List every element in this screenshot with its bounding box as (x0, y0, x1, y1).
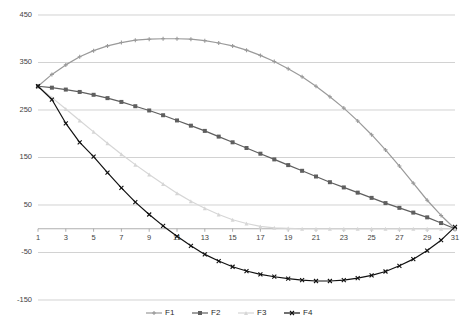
data-point-marker (411, 257, 415, 261)
data-point-marker (78, 140, 82, 144)
series-f1 (36, 37, 457, 231)
data-point-marker (231, 44, 235, 48)
y-tick-label: 150 (19, 152, 32, 161)
x-tick-label: 15 (228, 233, 236, 242)
series-line-f4 (38, 86, 455, 281)
data-point-marker (119, 186, 123, 190)
data-point-marker (161, 224, 165, 228)
chart-canvas: 45035025015050-50-150 135791113151719212… (0, 0, 464, 327)
data-point-marker (106, 44, 110, 48)
legend-label: F3 (257, 308, 267, 317)
data-point-marker (272, 157, 276, 161)
data-point-marker (50, 86, 54, 90)
data-point-marker (152, 311, 156, 315)
data-point-marker (384, 201, 388, 205)
data-point-marker (161, 37, 165, 41)
data-point-marker (189, 37, 193, 41)
data-point-marker (231, 140, 235, 144)
y-tick-label: 250 (19, 105, 32, 114)
x-tick-label: 23 (340, 233, 348, 242)
data-point-marker (175, 118, 179, 122)
line-chart: 45035025015050-50-150 135791113151719212… (0, 0, 464, 327)
data-point-marker (300, 169, 304, 173)
data-point-marker (78, 90, 82, 94)
data-point-marker (258, 152, 262, 156)
plot-series (36, 37, 457, 283)
data-point-marker (425, 249, 429, 253)
data-point-marker (106, 171, 110, 175)
data-point-marker (119, 100, 123, 104)
legend-label: F2 (211, 308, 221, 317)
legend-label: F4 (303, 308, 313, 317)
y-axis-tick-labels: 45035025015050-50-150 (17, 10, 32, 304)
x-tick-label: 31 (451, 233, 459, 242)
data-point-marker (439, 221, 443, 225)
data-point-marker (217, 135, 221, 139)
x-tick-label: 27 (395, 233, 403, 242)
data-point-marker (147, 213, 151, 217)
data-point-marker (133, 38, 137, 42)
data-point-marker (198, 311, 202, 315)
x-tick-label: 17 (256, 233, 264, 242)
legend-item-f2[interactable]: F2 (192, 308, 221, 317)
x-tick-label: 1 (36, 233, 40, 242)
legend-item-f4[interactable]: F4 (284, 308, 313, 317)
data-point-marker (356, 191, 360, 195)
data-point-marker (314, 175, 318, 179)
legend-item-f3[interactable]: F3 (238, 308, 267, 317)
y-tick-label: 450 (19, 10, 32, 19)
data-point-marker (92, 155, 96, 159)
x-tick-label: 9 (147, 233, 151, 242)
chart-legend: F1F2F3F4 (146, 308, 313, 317)
data-point-marker (92, 93, 96, 97)
data-point-marker (286, 163, 290, 167)
data-point-marker (397, 206, 401, 210)
data-point-marker (370, 196, 374, 200)
x-tick-label: 29 (423, 233, 431, 242)
data-point-marker (425, 215, 429, 219)
data-point-marker (203, 129, 207, 133)
data-point-marker (161, 113, 165, 117)
data-point-marker (203, 252, 207, 256)
data-point-marker (147, 37, 151, 41)
data-point-marker (133, 200, 137, 204)
x-tick-label: 19 (284, 233, 292, 242)
data-point-marker (342, 185, 346, 189)
data-point-marker (64, 121, 68, 125)
x-tick-label: 13 (201, 233, 209, 242)
data-point-marker (133, 104, 137, 108)
data-point-marker (106, 96, 110, 100)
x-tick-label: 25 (367, 233, 375, 242)
series-line-f1 (38, 39, 455, 229)
x-tick-label: 7 (119, 233, 123, 242)
data-point-marker (119, 41, 123, 45)
data-point-marker (258, 53, 262, 57)
data-point-marker (64, 88, 68, 92)
data-point-marker (147, 108, 151, 112)
legend-item-f1[interactable]: F1 (146, 308, 175, 317)
y-tick-label: 350 (19, 57, 32, 66)
y-tick-label: -150 (17, 295, 32, 304)
data-point-marker (245, 146, 249, 150)
x-tick-label: 21 (312, 233, 320, 242)
data-point-marker (328, 180, 332, 184)
x-tick-label: 3 (64, 233, 68, 242)
data-point-marker (189, 124, 193, 128)
data-point-marker (411, 211, 415, 215)
y-tick-label: -50 (21, 247, 32, 256)
series-f4 (36, 84, 457, 283)
data-point-marker (189, 244, 193, 248)
data-point-marker (175, 37, 179, 41)
x-tick-label: 5 (92, 233, 96, 242)
data-point-marker (92, 49, 96, 53)
x-axis-tick-labels: 135791113151719212325272931 (36, 233, 459, 242)
data-point-marker (245, 48, 249, 52)
y-tick-label: 50 (24, 200, 32, 209)
data-point-marker (439, 238, 443, 242)
data-point-marker (272, 60, 276, 64)
data-point-marker (203, 39, 207, 43)
legend-label: F1 (165, 308, 175, 317)
data-point-marker (217, 41, 221, 45)
